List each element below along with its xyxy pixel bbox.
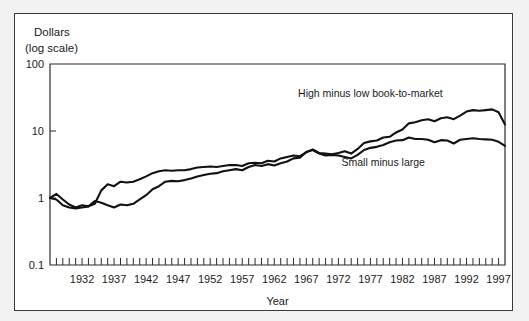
y-tick-label: 0.1 [29,259,44,271]
figure-canvas: Dollars (log scale) 1001010.1 1932193719… [0,0,529,321]
x-tick-label: 1962 [262,273,286,285]
x-tick-label: 1947 [166,273,190,285]
x-minor-ticks [56,258,498,265]
y-axis-title-line2: (log scale) [25,42,78,54]
x-tick-label: 1952 [198,273,222,285]
x-tick-label: 1942 [134,273,158,285]
x-tick-label: 1967 [294,273,318,285]
series-line-1 [50,137,505,208]
annotation-small-minus-large: Small minus large [342,156,426,168]
x-tick-label: 1997 [486,273,510,285]
y-tick-label: 1 [38,192,44,204]
y-tick-labels: 1001010.1 [26,58,44,271]
x-tick-label: 1977 [358,273,382,285]
x-tick-label: 1932 [70,273,94,285]
x-tick-label: 1937 [102,273,126,285]
y-tick-label: 10 [32,125,44,137]
y-tick-label: 100 [26,58,44,70]
series-lines [50,109,505,208]
y-axis-title-group: Dollars (log scale) [25,26,78,54]
x-tick-label: 1987 [422,273,446,285]
x-tick-label: 1972 [326,273,350,285]
y-axis-title-line1: Dollars [34,26,70,38]
x-axis-title: Year [266,295,289,307]
annotation-high-minus-low: High minus low book-to-market [298,87,443,99]
series-line-0 [50,109,505,207]
x-tick-label: 1982 [390,273,414,285]
chart-svg: Dollars (log scale) 1001010.1 1932193719… [0,0,529,321]
x-tick-labels: 1932193719421947195219571962196719721977… [70,273,511,285]
x-tick-label: 1957 [230,273,254,285]
y-major-ticks [50,131,56,198]
x-tick-label: 1992 [454,273,478,285]
